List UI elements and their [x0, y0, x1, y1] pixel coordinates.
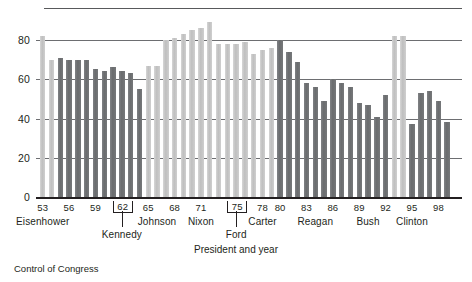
x-tick-83: 83: [297, 202, 317, 213]
bar: [436, 101, 441, 197]
bar: [277, 40, 282, 197]
bar: [163, 40, 168, 197]
bar: [146, 66, 151, 197]
bar: [251, 54, 256, 197]
x-tick-89: 89: [349, 202, 369, 213]
bar: [137, 89, 142, 197]
bar: [295, 62, 300, 197]
bar: [427, 91, 432, 197]
bar: [392, 36, 397, 197]
bar: [207, 22, 212, 197]
chart-root: 020406080 535659626568717578808386899295…: [0, 0, 472, 282]
x-tick-65: 65: [138, 202, 158, 213]
x-tick-68: 68: [165, 202, 185, 213]
bar: [75, 60, 80, 197]
bar: [172, 38, 177, 197]
x-tick-86: 86: [323, 202, 343, 213]
bar: [242, 42, 247, 197]
bar: [198, 28, 203, 197]
bar: [58, 58, 63, 197]
bar: [286, 52, 291, 197]
president-label-eisenhower: Eisenhower: [0, 216, 88, 227]
bar-series: [36, 20, 462, 197]
x-tick-80: 80: [270, 202, 290, 213]
bar: [181, 34, 186, 197]
y-tick-80: 80: [0, 34, 30, 46]
x-tick-53: 53: [33, 202, 53, 213]
bar: [304, 83, 309, 197]
y-tick-60: 60: [0, 73, 30, 85]
y-tick-20: 20: [0, 152, 30, 164]
president-label-clinton: Clinton: [367, 216, 457, 227]
x-tick-56: 56: [59, 202, 79, 213]
bar: [40, 36, 45, 197]
bar: [128, 73, 133, 197]
y-tick-0: 0: [0, 191, 30, 203]
bar: [400, 36, 405, 197]
bar: [119, 71, 124, 197]
bar: [383, 95, 388, 197]
bar: [102, 71, 107, 197]
x-tick-59: 59: [85, 202, 105, 213]
bar: [189, 30, 194, 197]
x-tick-75: 75: [227, 201, 247, 213]
bar: [374, 117, 379, 197]
bar: [321, 101, 326, 197]
x-tick-98: 98: [428, 202, 448, 213]
x-axis-title: President and year: [0, 244, 472, 255]
bar: [260, 50, 265, 197]
bar: [409, 124, 414, 197]
bar: [93, 69, 98, 197]
bar: [269, 48, 274, 197]
bar: [444, 122, 449, 197]
bar: [313, 87, 318, 197]
bar: [330, 79, 335, 197]
bar: [233, 44, 238, 197]
x-tick-71: 71: [191, 202, 211, 213]
bar: [225, 44, 230, 197]
bar: [418, 93, 423, 197]
bar: [339, 83, 344, 197]
x-tick-62: 62: [113, 201, 133, 213]
top-rule: [44, 8, 462, 9]
bar: [84, 60, 89, 197]
y-tick-40: 40: [0, 113, 30, 125]
bar: [348, 87, 353, 197]
bar: [154, 66, 159, 197]
bar: [357, 103, 362, 197]
x-tick-92: 92: [376, 202, 396, 213]
bar: [66, 60, 71, 197]
plot-area: [36, 20, 462, 198]
bar: [49, 60, 54, 197]
president-label-kennedy: Kennedy: [77, 229, 167, 240]
x-axis-line: [36, 197, 462, 199]
bar: [216, 44, 221, 197]
president-label-ford: Ford: [191, 229, 281, 240]
x-tick-95: 95: [402, 202, 422, 213]
bar: [110, 67, 115, 197]
chart-caption: Control of Congress: [14, 263, 98, 274]
bar: [365, 105, 370, 197]
